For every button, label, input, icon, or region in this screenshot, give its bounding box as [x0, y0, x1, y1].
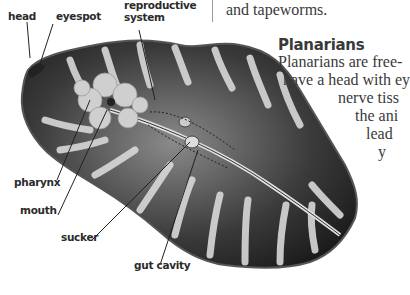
label-pharynx: pharynx	[14, 177, 60, 188]
label-head: head	[8, 11, 36, 22]
label-reproductive-system-line1: reproductive	[124, 0, 196, 11]
sucker-structure	[185, 136, 199, 148]
label-eyespot: eyespot	[56, 11, 101, 22]
label-reproductive-system-line2: system	[124, 12, 165, 23]
label-sucker: sucker	[61, 232, 98, 243]
body-text-line: the ani	[355, 107, 398, 125]
body-text-line: nerve tiss	[338, 89, 399, 107]
section-heading: Planarians	[278, 36, 364, 54]
label-mouth: mouth	[20, 205, 57, 216]
body-text-line: Planarians are free-	[278, 53, 402, 71]
body-text-line: lead	[366, 125, 393, 143]
body-text-line: have a head with ey	[283, 71, 410, 89]
label-gut-cavity: gut cavity	[134, 260, 190, 271]
body-text-line: y	[378, 143, 386, 161]
mouth-opening	[107, 98, 115, 106]
